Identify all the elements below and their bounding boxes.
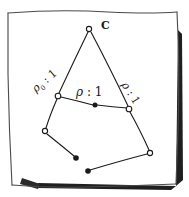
edge-apex-right (91, 32, 128, 106)
node-lower-right (147, 150, 152, 155)
edge-lowerleft-leafa (47, 134, 74, 156)
node-lower-left (42, 128, 47, 133)
node-apex-c (86, 26, 91, 31)
edge-center-right (97, 105, 127, 108)
edge-apex-left (59, 32, 88, 93)
edge-left-center (61, 97, 93, 105)
card-shadow (20, 30, 183, 190)
edge-leafb-lowerright (90, 154, 147, 170)
node-leaf-filled-a (73, 155, 79, 161)
graph-edges (46, 32, 149, 170)
edge-right-lowerright (130, 112, 149, 150)
node-left-junction (55, 93, 61, 99)
sketch-drawing (0, 0, 189, 197)
node-center-filled (93, 103, 98, 108)
graph-nodes-solid (73, 103, 97, 174)
sketch-card: C ρ0 : 1 ρ : 1 ρ : 1 (0, 0, 189, 197)
edge-left-lowerleft (46, 99, 57, 128)
graph-nodes-hollow (42, 26, 152, 155)
node-leaf-filled-b (85, 168, 91, 174)
node-right-junction (126, 106, 132, 112)
